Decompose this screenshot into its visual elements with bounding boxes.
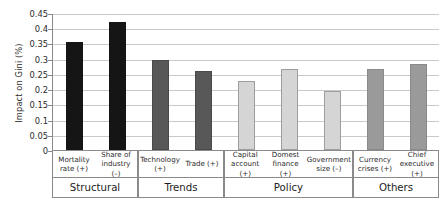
y-axis-tick-label: 0.2 xyxy=(35,85,48,95)
x-axis-tick-label: Technology (+) xyxy=(139,151,181,177)
x-axis-tick-label: Capital account (+) xyxy=(225,151,265,177)
y-axis-tick-labels: 00.050.10.150.20.250.30.350.40.45 xyxy=(18,14,48,151)
bar xyxy=(410,64,427,150)
y-axis-tick-label: 0.4 xyxy=(35,24,48,34)
bar xyxy=(238,81,255,150)
x-axis-group-name: Policy xyxy=(225,178,352,197)
x-axis-tick-label: Chief executive (+) xyxy=(396,151,438,177)
y-axis-tick-label: 0.35 xyxy=(30,39,48,49)
bar xyxy=(152,60,169,150)
y-axis-tick-label: 0.1 xyxy=(35,116,48,126)
y-axis-tick-label: 0.3 xyxy=(35,55,48,65)
y-axis-tick-label: 0.45 xyxy=(30,9,48,19)
bar-chart: Impact on Gini (%) 00.050.10.150.20.250.… xyxy=(0,0,448,220)
x-axis-tick-label: Domest finance (+) xyxy=(265,151,305,177)
y-axis-tick-label: 0.05 xyxy=(30,131,48,141)
bar xyxy=(367,69,384,150)
bar xyxy=(109,22,126,150)
bar xyxy=(195,71,212,150)
x-axis-group-policy: Capital account (+)Domest finance (+)Gov… xyxy=(224,151,353,197)
x-axis-tick-label: Government size (–) xyxy=(306,151,352,177)
bar xyxy=(281,69,298,150)
x-axis-group-name: Structural xyxy=(53,178,137,197)
bar xyxy=(66,42,83,150)
x-axis-group-name: Others xyxy=(354,178,438,197)
y-axis-tick-label: 0.25 xyxy=(30,70,48,80)
y-axis-tick-label: 0.15 xyxy=(30,100,48,110)
x-axis-item-labels: Capital account (+)Domest finance (+)Gov… xyxy=(225,151,352,178)
x-axis-group-name: Trends xyxy=(139,178,223,197)
bar-series xyxy=(53,14,439,150)
x-axis-item-labels: Technology (+)Trade (+) xyxy=(139,151,223,178)
x-axis-group-labels: Mortality rate (+)Share of industry (–)S… xyxy=(52,151,439,198)
bar xyxy=(324,91,341,150)
x-axis-tick-label: Mortality rate (+) xyxy=(53,151,95,177)
x-axis-group-structural: Mortality rate (+)Share of industry (–)S… xyxy=(52,151,138,197)
x-axis-tick-label: Trade (+) xyxy=(181,151,223,177)
x-axis-item-labels: Mortality rate (+)Share of industry (–) xyxy=(53,151,137,178)
x-axis-tick-label: Share of industry (–) xyxy=(95,151,137,177)
x-axis-group-trends: Technology (+)Trade (+)Trends xyxy=(138,151,224,197)
x-axis-group-others: Currency crises (+)Chief executive (+)Ot… xyxy=(353,151,439,197)
plot-area xyxy=(52,14,439,151)
x-axis-item-labels: Currency crises (+)Chief executive (+) xyxy=(354,151,438,178)
x-axis-tick-label: Currency crises (+) xyxy=(354,151,396,177)
